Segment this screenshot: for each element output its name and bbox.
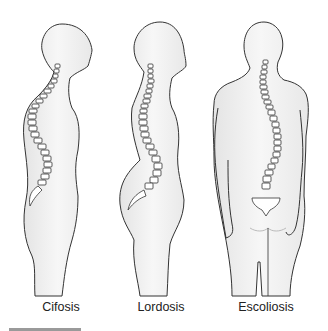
cifosis-figure — [24, 24, 92, 296]
label-cifosis: Cifosis — [6, 300, 116, 314]
label-escoliosis: Escoliosis — [211, 300, 321, 314]
lordosis-figure — [120, 22, 186, 296]
spine-disorders-illustration — [0, 0, 328, 331]
escoliosis-figure — [213, 22, 308, 296]
label-lordosis: Lordosis — [106, 300, 216, 314]
